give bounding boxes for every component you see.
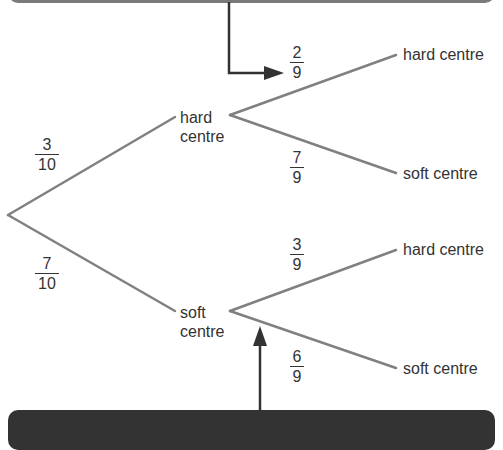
probability-2-9: 2 9 <box>282 44 312 81</box>
denominator: 10 <box>32 275 62 292</box>
numerator: 2 <box>282 44 312 61</box>
top-arrow <box>229 2 284 80</box>
probability-6-9: 6 9 <box>282 348 312 385</box>
fraction-bar <box>35 154 59 155</box>
branch-soft-hard <box>230 250 396 311</box>
branch-hard-hard <box>230 55 396 115</box>
probability-7-10: 7 10 <box>32 255 62 292</box>
numerator: 7 <box>32 255 62 272</box>
node-first-hard: hard centre <box>180 108 224 146</box>
denominator: 9 <box>282 64 312 81</box>
branch-soft-soft <box>230 311 396 368</box>
denominator: 9 <box>282 368 312 385</box>
fraction-bar <box>290 366 304 367</box>
fraction-bar <box>290 167 304 168</box>
node-label-line: soft <box>180 303 224 322</box>
fraction-bar <box>290 62 304 63</box>
fraction-bar <box>290 254 304 255</box>
numerator: 3 <box>282 236 312 253</box>
denominator: 9 <box>282 256 312 273</box>
probability-3-10: 3 10 <box>32 136 62 173</box>
node-label-line: hard <box>180 108 224 127</box>
denominator: 10 <box>32 156 62 173</box>
probability-3-9: 3 9 <box>282 236 312 273</box>
outcome-soft-soft: soft centre <box>403 359 478 378</box>
branch-hard-soft <box>230 115 396 173</box>
outcome-hard-hard: hard centre <box>403 45 484 64</box>
fraction-bar <box>35 273 59 274</box>
numerator: 7 <box>282 149 312 166</box>
arrowhead-up-icon <box>253 326 267 346</box>
outcome-hard-soft: soft centre <box>403 164 478 183</box>
denominator: 9 <box>282 169 312 186</box>
probability-7-9: 7 9 <box>282 149 312 186</box>
outcome-soft-hard: hard centre <box>403 240 484 259</box>
numerator: 3 <box>32 136 62 153</box>
node-label-line: centre <box>180 127 224 146</box>
node-label-line: centre <box>180 322 224 341</box>
numerator: 6 <box>282 348 312 365</box>
bottom-arrow <box>253 326 267 411</box>
arrowhead-right-icon <box>264 66 284 80</box>
node-first-soft: soft centre <box>180 303 224 341</box>
